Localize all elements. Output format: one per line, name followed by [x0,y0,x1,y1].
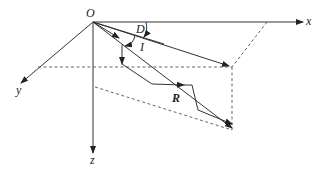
resultant-label: R [172,92,180,104]
y-axis [21,22,93,83]
z-axis-label: z [90,154,95,166]
x-axis-label: x [306,15,311,27]
construction-lines [38,22,267,130]
inclination-label: I [140,41,144,53]
y-axis-label: y [16,84,21,96]
inclination-line [93,22,232,128]
declination-label: D [136,23,145,35]
inclination-arc [125,35,135,46]
declination-line [93,22,164,44]
origin-label: O [86,7,95,19]
diagram-canvas [0,0,327,175]
